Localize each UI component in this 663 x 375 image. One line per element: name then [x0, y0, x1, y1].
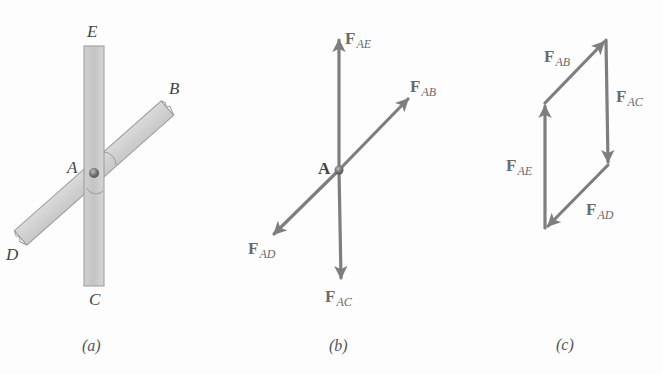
label-b: B: [169, 80, 179, 97]
label-fab-b: FAB: [410, 78, 436, 98]
force-symbol: F: [410, 77, 420, 96]
pin-a: [89, 168, 99, 178]
arrow-fab: [339, 99, 408, 170]
label-d: D: [6, 246, 18, 263]
force-subscript: AC: [627, 95, 642, 109]
label-fad-b: FAD: [248, 240, 275, 260]
force-symbol: F: [586, 200, 596, 219]
pin-b: [335, 166, 344, 175]
arrow-fac: [339, 170, 341, 278]
force-subscript: AD: [259, 247, 275, 261]
arrow-fad: [274, 170, 339, 234]
polygon-fac: [606, 40, 608, 162]
caption-c: (c): [556, 337, 574, 353]
label-fab-c: FAB: [544, 48, 570, 68]
force-subscript: AB: [555, 55, 570, 69]
force-subscript: AE: [356, 37, 371, 51]
label-fae-b: FAE: [345, 30, 371, 50]
panel-a-bars: [12, 46, 176, 286]
force-symbol: F: [506, 156, 516, 175]
bar-ec: [84, 46, 104, 286]
force-symbol: F: [325, 287, 335, 306]
force-symbol: F: [616, 87, 626, 106]
label-c: C: [89, 291, 100, 308]
label-fae-c: FAE: [506, 157, 532, 177]
force-symbol: F: [248, 239, 258, 258]
label-fad-c: FAD: [586, 201, 613, 221]
label-e: E: [87, 23, 97, 40]
force-symbol: F: [345, 29, 355, 48]
label-fac-c: FAC: [616, 88, 643, 108]
label-fac-b: FAC: [325, 288, 352, 308]
force-subscript: AC: [336, 295, 351, 309]
caption-b: (b): [329, 338, 348, 354]
force-subscript: AB: [421, 85, 436, 99]
panel-b-fbd: [274, 40, 408, 278]
force-subscript: AD: [597, 208, 613, 222]
label-a: A: [67, 159, 77, 176]
caption-a: (a): [82, 338, 101, 354]
force-symbol: F: [544, 47, 554, 66]
label-a-b: A: [318, 160, 330, 177]
force-subscript: AE: [517, 164, 532, 178]
